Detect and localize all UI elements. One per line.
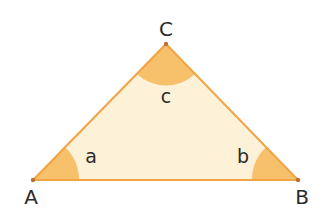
vertex-dot-a bbox=[31, 178, 35, 182]
angle-label-a: a bbox=[85, 145, 97, 167]
triangle-diagram: A B C a b c bbox=[0, 0, 324, 222]
angle-label-b: b bbox=[237, 145, 249, 167]
vertex-label-b: B bbox=[295, 185, 309, 209]
vertex-label-a: A bbox=[24, 185, 38, 209]
angle-label-c: c bbox=[161, 85, 171, 107]
vertex-label-c: C bbox=[159, 17, 173, 41]
vertex-dot-c bbox=[164, 42, 168, 46]
vertex-dot-b bbox=[296, 178, 300, 182]
